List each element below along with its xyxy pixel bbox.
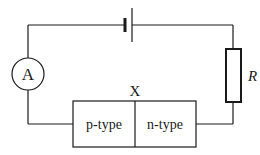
resistor-label: R bbox=[247, 68, 257, 84]
p-type-label: p-type bbox=[86, 117, 122, 132]
ammeter-label: A bbox=[22, 65, 35, 84]
ammeter-icon: A bbox=[12, 58, 44, 90]
circuit-diagram: A R X p-type n-type bbox=[0, 0, 260, 155]
n-type-label: n-type bbox=[147, 117, 183, 132]
junction-label: X bbox=[130, 83, 141, 99]
resistor-icon bbox=[226, 49, 241, 102]
cell-icon bbox=[125, 8, 132, 42]
